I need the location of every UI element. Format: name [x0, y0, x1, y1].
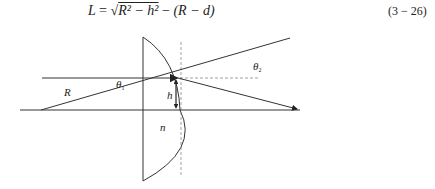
lens-outline	[143, 37, 185, 181]
label-theta1: θ1	[116, 78, 124, 91]
lens-diagram: R θ1 θ2 h n	[0, 0, 435, 189]
label-n: n	[160, 121, 166, 133]
label-theta2: θ2	[253, 60, 261, 73]
radius-line	[41, 38, 290, 110]
label-h: h	[167, 89, 173, 101]
label-R: R	[63, 86, 71, 98]
refracted-ray	[178, 78, 297, 109]
